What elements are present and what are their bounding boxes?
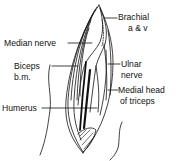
label-median-nerve: Median nerve [4, 38, 56, 48]
label-of-triceps: of triceps [120, 96, 155, 106]
label-humerus: Humerus [2, 103, 37, 113]
skin-contour-right [110, 122, 122, 160]
label-ulnar: Ulnar [121, 59, 142, 69]
label-brachial-av: a & v [128, 23, 148, 33]
label-biceps-bm: b.m. [14, 72, 31, 82]
label-biceps: Biceps [14, 61, 40, 71]
label-medial-head: Medial head [118, 85, 165, 95]
skin-contour-left [40, 65, 50, 155]
label-ulnar-nerve: nerve [121, 70, 143, 80]
label-brachial: Brachial [118, 12, 149, 22]
